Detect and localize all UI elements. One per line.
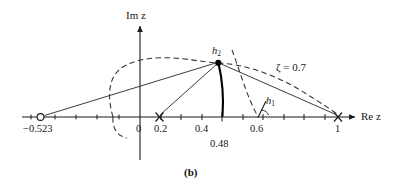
imaginary-axis-label: Im z (126, 10, 146, 21)
design-point-label-h2: h2 (212, 46, 221, 57)
figure-caption: (b) (184, 166, 197, 178)
vector-from-zero (45, 63, 218, 116)
damping-ratio-label: ζ = 0.7 (276, 62, 306, 73)
tick-label-048: 0.48 (210, 139, 228, 150)
real-axis-label: Re z (361, 111, 381, 122)
tick-label-04: 0.4 (195, 124, 208, 135)
angle-label-h1: h1 (266, 96, 275, 107)
tick-label-06: 0.6 (250, 124, 263, 135)
zero-value-label: −0.523 (23, 124, 53, 135)
root-locus-plot (0, 0, 393, 189)
figure-panel-b: Im z Re z −0.523 0 0.2 0.4 0.48 0.6 1 ζ … (0, 0, 393, 189)
tick-label-1: 1 (335, 124, 340, 135)
zero-marker (37, 114, 44, 121)
tick-label-0: 0 (136, 124, 141, 135)
tick-label-02: 0.2 (154, 124, 167, 135)
design-point-h2 (215, 60, 221, 66)
root-locus-branch (219, 64, 224, 117)
